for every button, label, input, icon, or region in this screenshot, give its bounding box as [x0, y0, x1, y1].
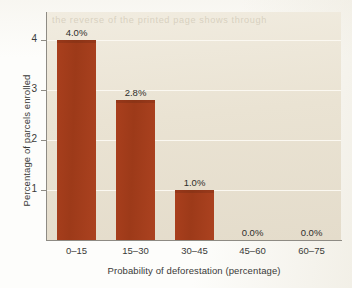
- y-axis-tick-label: 4: [13, 33, 37, 44]
- y-axis-tick: [41, 90, 47, 91]
- y-axis-tick: [41, 140, 47, 141]
- x-axis-title: Probability of deforestation (percentage…: [44, 265, 344, 276]
- y-axis-tick-label: 3: [13, 83, 37, 94]
- plot-area: the reverse of the printed page shows th…: [47, 12, 341, 240]
- bar-top-shade: [175, 190, 214, 193]
- bar-value-label: 0.0%: [282, 227, 341, 238]
- bar: [175, 190, 214, 240]
- bar-value-label: 1.0%: [165, 177, 224, 188]
- bar-value-label: 2.8%: [106, 87, 165, 98]
- bar-value-label: 0.0%: [223, 227, 282, 238]
- bar-top-shade: [57, 40, 96, 43]
- y-axis-tick-label: 1: [13, 183, 37, 194]
- y-axis-line: [46, 12, 47, 241]
- x-axis-tick-label: 60–75: [282, 245, 341, 256]
- bar-top-shade: [116, 100, 155, 103]
- x-axis-tick-label: 30–45: [165, 245, 224, 256]
- y-axis-tick: [41, 190, 47, 191]
- y-axis-tick-label: 2: [13, 133, 37, 144]
- x-axis-tick-label: 0–15: [47, 245, 106, 256]
- y-axis-tick: [41, 40, 47, 41]
- x-axis-tick-label: 15–30: [106, 245, 165, 256]
- chart-figure: Percentage of parcels enrolled the rever…: [0, 0, 352, 288]
- bar: [116, 100, 155, 240]
- bar-value-label: 4.0%: [47, 27, 106, 38]
- bar: [57, 40, 96, 240]
- x-axis-tick-label: 45–60: [223, 245, 282, 256]
- page-bleed-through-text: the reverse of the printed page shows th…: [52, 15, 341, 25]
- x-axis-line: [46, 240, 342, 241]
